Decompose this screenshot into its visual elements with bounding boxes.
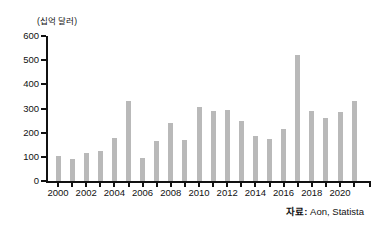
x-axis-tick [325,183,327,187]
source-label: 자료: [286,206,307,217]
x-axis-tick [297,183,299,187]
bar-2019 [323,118,328,181]
bar-2018 [309,111,314,181]
bar-2002 [84,153,89,181]
x-axis-line [46,181,371,183]
source-value: Aon, Statista [307,206,364,217]
x-axis-tick-label: 2006 [127,188,159,198]
y-axis-tick-label: 100 [9,152,39,162]
x-axis-tick-label: 2016 [268,188,300,198]
bar-2014 [253,136,258,181]
x-axis-tick-label: 2008 [155,188,187,198]
chart-canvas: (십억 달러) 01002003004005006002000200220042… [0,0,381,232]
bar-2013 [239,121,244,181]
x-axis-tick [353,183,355,187]
x-axis-tick-label: 2014 [239,188,271,198]
bar-2005 [126,101,131,181]
y-axis-tick [41,35,46,37]
bar-2004 [112,138,117,182]
y-axis-tick-label: 0 [9,176,39,186]
bar-2011 [211,111,216,181]
x-axis-tick [71,183,73,187]
y-axis-tick [41,59,46,61]
bar-2009 [182,140,187,181]
x-axis-tick-label: 2018 [296,188,328,198]
x-axis-tick-label: 2012 [211,188,243,198]
bar-2003 [98,151,103,181]
x-axis-tick [269,183,271,187]
y-axis-tick [41,156,46,158]
bar-2012 [225,110,230,181]
bar-2001 [70,159,75,181]
bar-2016 [281,129,286,181]
x-axis-tick [184,183,186,187]
y-axis-tick-label: 200 [9,128,39,138]
x-axis-tick [240,183,242,187]
x-axis-tick [128,183,130,187]
x-axis-tick-label: 2002 [70,188,102,198]
bar-2007 [154,141,159,181]
x-axis-tick [99,183,101,187]
bar-2008 [168,123,173,181]
y-axis-tick-label: 600 [9,31,39,41]
x-axis-tick [156,183,158,187]
y-axis-line [46,36,48,183]
y-axis-tick [41,132,46,134]
bar-2020 [338,112,343,181]
x-axis-tick [212,183,214,187]
x-axis-tick-label: 2004 [98,188,130,198]
y-axis-tick [41,83,46,85]
x-axis-end-tick [369,183,371,187]
x-axis-tick-label: 2000 [42,188,74,198]
x-axis-tick-label: 2010 [183,188,215,198]
y-axis-tick [41,108,46,110]
y-axis-tick-label: 300 [9,104,39,114]
bar-2015 [267,139,272,181]
bar-2021 [352,101,357,181]
y-axis-tick [41,180,46,182]
y-axis-unit-label: (십억 달러) [37,14,77,26]
bar-2010 [197,107,202,181]
source-note: 자료: Aon, Statista [286,204,364,218]
bar-2017 [295,55,300,181]
bar-2000 [56,156,61,181]
y-axis-tick-label: 400 [9,79,39,89]
bar-2006 [140,158,145,181]
x-axis-tick-label: 2020 [324,188,356,198]
plot-area: 0100200300400500600200020022004200620082… [47,36,370,181]
y-axis-tick-label: 500 [9,55,39,65]
